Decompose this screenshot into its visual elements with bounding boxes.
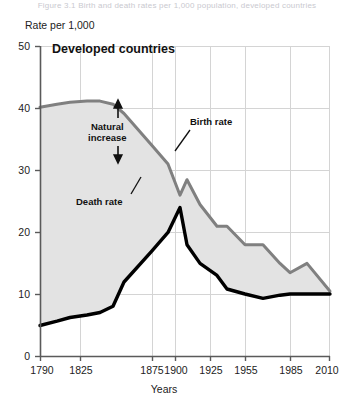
annotation-natural-increase-line2: increase xyxy=(88,132,127,143)
annotation-natural-increase-line1: Natural xyxy=(88,121,127,132)
x-tick-label-1955: 1955 xyxy=(234,364,257,376)
y-tick-label-0: 0 xyxy=(4,350,30,362)
annotation-natural-increase: Natural increase xyxy=(88,121,127,143)
x-tick-label-1875: 1875 xyxy=(140,364,163,376)
x-tick-label-1925: 1925 xyxy=(199,364,222,376)
annotation-birth-rate: Birth rate xyxy=(190,116,232,127)
x-axis-title-text: Years xyxy=(151,383,177,395)
x-axis-title: Years xyxy=(0,383,354,395)
annotation-death-rate: Death rate xyxy=(76,196,122,207)
x-tick-label-1900: 1900 xyxy=(164,364,187,376)
figure-birth-death-rates: Figure 3.1 Birth and death rates per 1,0… xyxy=(0,0,354,407)
y-tick-label-50: 50 xyxy=(4,40,30,52)
y-tick-label-40: 40 xyxy=(4,102,30,114)
x-tick-label-1825: 1825 xyxy=(69,364,92,376)
y-tick-label-20: 20 xyxy=(4,226,30,238)
y-tick-marks xyxy=(35,47,40,357)
panel-title: Developed countries xyxy=(52,42,175,56)
chart-canvas xyxy=(0,0,354,407)
x-tick-label-2010: 2010 xyxy=(315,364,338,376)
y-tick-label-30: 30 xyxy=(4,164,30,176)
x-tick-label-1985: 1985 xyxy=(279,364,302,376)
y-tick-label-10: 10 xyxy=(4,288,30,300)
x-tick-label-1790: 1790 xyxy=(30,364,53,376)
